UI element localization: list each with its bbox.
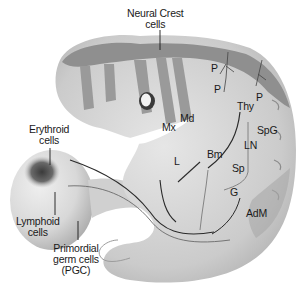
label-l: L xyxy=(174,156,180,167)
label-adm: AdM xyxy=(246,208,267,219)
label-p-1: P xyxy=(211,63,218,74)
label-bm: Bm xyxy=(207,149,222,160)
label-mx: Mx xyxy=(162,122,176,133)
label-sp: Sp xyxy=(232,163,244,174)
label-g: G xyxy=(230,187,238,198)
label-lymphoid-line2: cells xyxy=(16,227,60,238)
erythroid-cluster xyxy=(24,156,60,188)
label-pgc: Primordial germ cells (PGC) xyxy=(53,243,99,276)
label-p-2: P xyxy=(214,84,221,95)
label-ln: LN xyxy=(244,140,257,151)
label-spg: SpG xyxy=(257,125,277,136)
label-pgc-line3: (PGC) xyxy=(53,265,99,276)
embryo-diagram: Neural Crest cells Erythroid cells Lymph… xyxy=(0,0,300,294)
label-md: Md xyxy=(180,113,194,124)
label-lymphoid: Lymphoid cells xyxy=(16,216,60,238)
label-thy: Thy xyxy=(237,101,254,112)
label-p-3: P xyxy=(256,92,263,103)
label-erythroid-line2: cells xyxy=(29,135,69,146)
label-neural-crest-line2: cells xyxy=(127,19,184,30)
label-neural-crest: Neural Crest cells xyxy=(127,8,184,30)
label-erythroid: Erythroid cells xyxy=(29,124,69,146)
